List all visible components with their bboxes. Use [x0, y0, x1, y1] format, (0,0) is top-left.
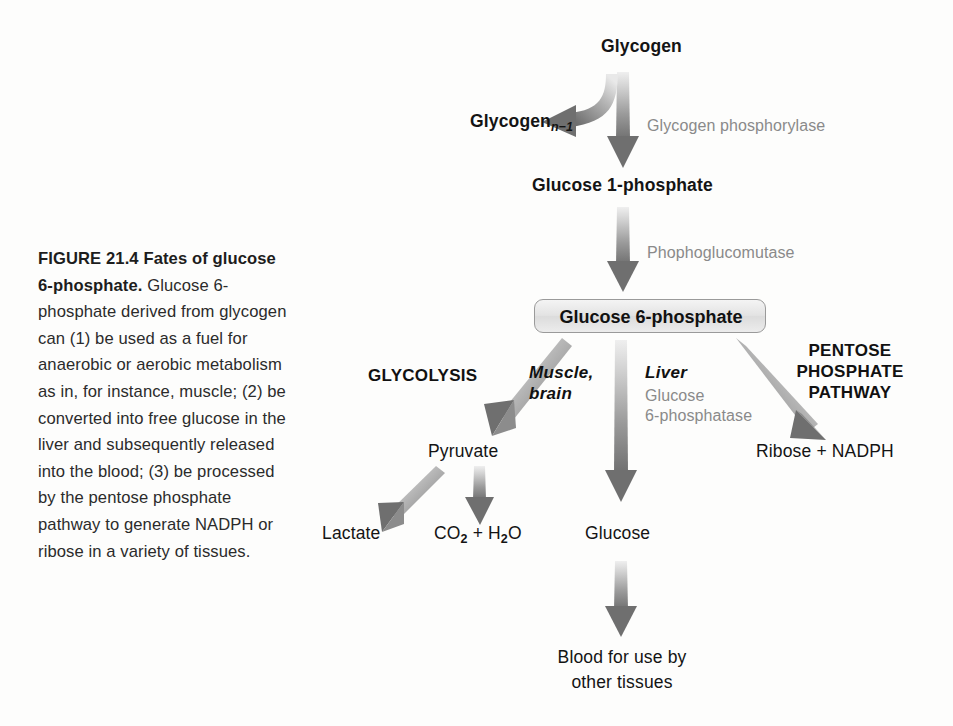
enzyme-glucose-6-phosphatase-line1: Glucose	[645, 387, 704, 404]
pathway-label-muscle-brain-line1: Muscle,	[529, 363, 593, 382]
pathway-label-muscle-brain-line2: brain	[529, 384, 572, 403]
node-glucose: Glucose	[585, 523, 650, 544]
node-glycogen-n-minus-1: Glycogenn−1	[470, 111, 573, 134]
enzyme-glucose-6-phosphatase-line2: 6-phosphatase	[645, 407, 752, 424]
node-glycogen: Glycogen	[601, 36, 682, 57]
node-blood-line1: Blood for use by	[558, 647, 687, 667]
node-ribose-plus-nadph: Ribose + NADPH	[756, 441, 894, 462]
pathway-label-glycolysis: GLYCOLYSIS	[368, 365, 477, 386]
node-glycogen-n-minus-1-subscript: n−1	[551, 120, 573, 134]
pathway-label-muscle-brain: Muscle, brain	[529, 362, 593, 404]
figure-page: FIGURE 21.4 Fates of glucose 6-phosphate…	[0, 0, 953, 726]
node-glucose-1-phosphate: Glucose 1-phosphate	[532, 175, 713, 196]
node-glucose-6-phosphate-box: Glucose 6-phosphate	[534, 299, 766, 333]
pathway-label-pentose-line3: PATHWAY	[808, 383, 891, 402]
figure-caption-body: Glucose 6-phosphate derived from glycoge…	[38, 276, 286, 561]
arrow-glucose-to-blood	[605, 561, 637, 637]
node-co2-c: CO	[434, 523, 461, 543]
pathway-label-pentose-phosphate-pathway: PENTOSE PHOSPHATE PATHWAY	[775, 340, 925, 403]
node-co2-subscript: 2	[461, 532, 468, 546]
enzyme-glucose-6-phosphatase: Glucose 6-phosphatase	[645, 386, 752, 426]
node-glycogen-n-minus-1-base: Glycogen	[470, 111, 551, 131]
arrow-pyruvate-to-co2-h2o	[465, 466, 494, 525]
enzyme-phosphoglucomutase: Phophoglucomutase	[647, 243, 795, 263]
pathway-label-pentose-line1: PENTOSE	[808, 341, 891, 360]
arrow-g1p-to-g6p	[607, 207, 639, 292]
node-pyruvate: Pyruvate	[428, 441, 498, 462]
node-h2o-subscript: 2	[501, 532, 508, 546]
node-lactate: Lactate	[322, 523, 380, 544]
figure-caption: FIGURE 21.4 Fates of glucose 6-phosphate…	[38, 246, 290, 565]
arrow-g6p-to-glucose	[605, 340, 637, 502]
node-co2-h2o-middle: + H	[468, 523, 501, 543]
enzyme-glycogen-phosphorylase: Glycogen phosphorylase	[647, 116, 825, 136]
pathway-label-pentose-line2: PHOSPHATE	[796, 362, 903, 381]
node-blood-line2: other tissues	[571, 672, 672, 692]
arrow-glycogen-to-g1p	[607, 72, 639, 168]
node-h2o-oxygen: O	[508, 523, 522, 543]
pathway-label-liver: Liver	[645, 362, 687, 383]
node-co2-plus-h2o: CO2 + H2O	[434, 523, 522, 546]
node-blood-other-tissues: Blood for use by other tissues	[541, 645, 703, 695]
node-glucose-6-phosphate-label: Glucose 6-phosphate	[535, 300, 767, 334]
